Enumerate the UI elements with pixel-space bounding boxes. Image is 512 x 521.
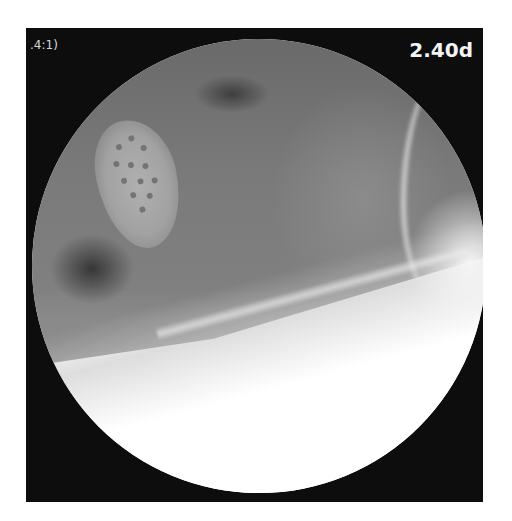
dot-marker <box>146 192 153 199</box>
dot-marker <box>127 162 134 169</box>
dot-marker <box>120 177 127 184</box>
dot-marker <box>139 206 146 213</box>
dot-marker <box>140 144 147 151</box>
dot-marker <box>115 144 122 151</box>
image-viewport: .4:1) 2.40d <box>26 28 483 502</box>
dot-marker <box>137 178 144 185</box>
dot-marker <box>142 163 149 170</box>
measurement-label: 2.40d <box>409 38 473 62</box>
dot-marker <box>151 177 158 184</box>
dot-marker <box>113 161 120 168</box>
ratio-label: .4:1) <box>30 38 58 52</box>
fluoroscopy-field <box>32 39 483 493</box>
dot-marker <box>130 192 137 199</box>
dot-marker <box>128 135 135 142</box>
